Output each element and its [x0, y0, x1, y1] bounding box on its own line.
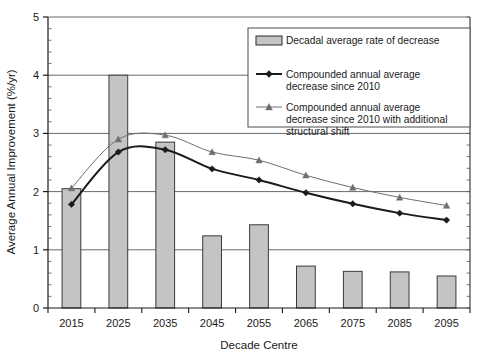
- y-axis-title: Average Annual Improvement (%/yr): [5, 69, 17, 254]
- bar-2065: [297, 266, 316, 308]
- legend-swatch-bar: [256, 36, 282, 45]
- bar-2035: [156, 142, 175, 308]
- y-tick-label-5: 5: [33, 11, 39, 23]
- x-axis-tick-labels: 201520252035204520552065207520852095: [59, 317, 459, 329]
- x-axis-title: Decade Centre: [220, 339, 297, 351]
- y-tick-label-1: 1: [33, 244, 39, 256]
- legend-label-series1-line1: Compounded annual average: [286, 69, 421, 80]
- legend-label-bar: Decadal average rate of decrease: [286, 35, 440, 46]
- x-tick-label-2085: 2085: [387, 317, 411, 329]
- x-tick-label-2095: 2095: [434, 317, 458, 329]
- bar-2025: [109, 75, 128, 308]
- bar-2055: [250, 225, 269, 308]
- y-tick-label-0: 0: [33, 302, 39, 314]
- bar-2045: [203, 236, 222, 308]
- x-tick-label-2075: 2075: [341, 317, 365, 329]
- x-tick-label-2065: 2065: [294, 317, 318, 329]
- x-tick-label-2055: 2055: [247, 317, 271, 329]
- y-tick-label-4: 4: [33, 69, 39, 81]
- bar-2085: [390, 272, 409, 308]
- chart-figure: 012345 201520252035204520552065207520852…: [0, 0, 490, 361]
- x-tick-label-2035: 2035: [153, 317, 177, 329]
- y-axis-tick-labels: 012345: [33, 11, 39, 314]
- legend-label-series2-line1: Compounded annual average: [286, 102, 421, 113]
- bar-2075: [343, 271, 362, 308]
- x-axis-ticks: [48, 308, 470, 313]
- legend-label-series2-line3: structural shift: [286, 126, 350, 137]
- legend-label-series2-line2: decrease since 2010 with additional: [286, 114, 447, 125]
- y-tick-label-2: 2: [33, 186, 39, 198]
- y-tick-label-3: 3: [33, 127, 39, 139]
- x-tick-label-2045: 2045: [200, 317, 224, 329]
- x-tick-label-2015: 2015: [59, 317, 83, 329]
- chart-canvas: 012345 201520252035204520552065207520852…: [0, 0, 490, 361]
- bar-2095: [437, 276, 456, 308]
- x-tick-label-2025: 2025: [106, 317, 130, 329]
- legend-label-series1-line2: decrease since 2010: [286, 81, 380, 92]
